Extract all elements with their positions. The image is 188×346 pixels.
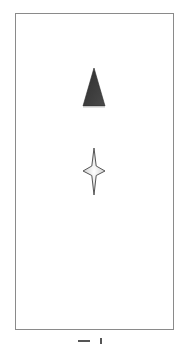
caption-glyph-fragment	[100, 338, 102, 344]
figure-shapes	[0, 0, 188, 346]
triangle-icon	[83, 68, 105, 107]
four-pointed-star-icon	[83, 148, 105, 195]
figure-caption	[0, 337, 188, 346]
caption-glyph-fragment	[78, 340, 90, 342]
